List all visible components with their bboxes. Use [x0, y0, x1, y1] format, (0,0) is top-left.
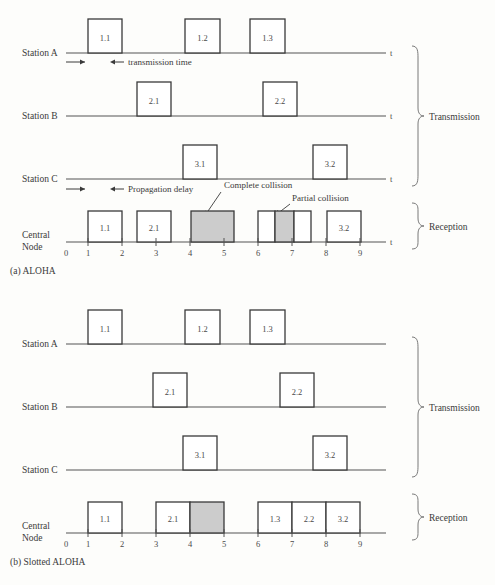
axis-label-t: t: [390, 48, 393, 58]
axis-label-t: t: [390, 174, 393, 184]
packet-box: [258, 211, 275, 242]
tick-label: 1: [86, 539, 90, 549]
annotation-label: Propagation delay: [128, 184, 194, 194]
row-station-a: Station A 1.1 1.2 1.3: [22, 310, 386, 349]
row-label-station-c: Station C: [22, 465, 58, 475]
packet-box: [294, 211, 311, 242]
aloha-timing-figure: Station A t 1.1 1.2 1.3 transmission tim…: [0, 0, 495, 585]
tick-label: 6: [256, 539, 260, 549]
packet-label: 3.2: [339, 223, 350, 233]
annotation-transmission-time: transmission time: [66, 57, 192, 67]
panel-slotted-aloha: Station A 1.1 1.2 1.3 Station B 2.1 2.2 …: [10, 310, 480, 568]
brace-label-transmission: Transmission: [429, 403, 480, 413]
row-label-station-a: Station A: [22, 339, 58, 349]
packet-label: 2.1: [149, 223, 160, 233]
row-central-node: Central Node t 1.1 2.1 3.2: [22, 211, 393, 258]
tick-label: 4: [188, 248, 193, 258]
row-station-a: Station A t 1.1 1.2 1.3: [22, 19, 393, 58]
panel-aloha: Station A t 1.1 1.2 1.3 transmission tim…: [10, 19, 480, 277]
row-label-central-line1: Central: [22, 521, 50, 531]
packet-label: 1.3: [262, 33, 273, 43]
packet-label: 3.2: [338, 514, 349, 524]
packet-label: 3.2: [325, 450, 336, 460]
row-label-station-b: Station B: [22, 402, 58, 412]
collision-box-complete: [190, 502, 224, 533]
row-station-b: Station B t 2.1 2.2: [22, 82, 393, 121]
tick-label: 4: [188, 539, 193, 549]
tick-label: 3: [154, 539, 158, 549]
row-central-node: Central Node 1.1 2.1 1.3 2.2 3.2: [22, 502, 386, 549]
row-label-station-c: Station C: [22, 174, 58, 184]
packet-label: 3.1: [195, 450, 206, 460]
row-label-central-line2: Node: [22, 533, 43, 543]
tick-label: 1: [86, 248, 90, 258]
tick-label: 8: [324, 248, 328, 258]
packet-label: 2.2: [275, 96, 286, 106]
collision-box-complete: [191, 211, 234, 242]
packet-label: 2.2: [304, 514, 315, 524]
brace-label-reception: Reception: [429, 513, 468, 523]
axis-tick-labels: 0 1 2 3 4 5 6 7 8 9: [64, 539, 362, 549]
panel-caption-b: (b) Slotted ALOHA: [10, 557, 86, 568]
tick-label: 0: [64, 539, 68, 549]
axis-label-t: t: [390, 237, 393, 247]
annotation-label: transmission time: [128, 57, 192, 67]
brace-transmission-b: Transmission: [412, 337, 480, 477]
packet-label: 1.1: [100, 514, 111, 524]
packet-label: 3.1: [195, 159, 206, 169]
tick-label: 9: [358, 539, 362, 549]
tick-label: 0: [64, 248, 68, 258]
row-station-c: Station C 3.1 3.2: [22, 436, 386, 475]
tick-label: 3: [154, 248, 158, 258]
packet-label: 3.2: [325, 159, 336, 169]
row-label-central-line1: Central: [22, 230, 50, 240]
packet-label: 2.1: [168, 514, 179, 524]
brace-reception-b: Reception: [412, 494, 468, 540]
packet-label: 1.2: [197, 324, 208, 334]
tick-label: 8: [324, 539, 328, 549]
packet-label: 2.1: [165, 387, 176, 397]
brace-reception-a: Reception: [412, 203, 468, 249]
row-station-c: Station C t 3.1 3.2: [22, 145, 393, 184]
packet-label: 1.1: [100, 33, 111, 43]
row-station-b: Station B 2.1 2.2: [22, 373, 386, 412]
annotation-label: Partial collision: [292, 193, 349, 203]
tick-label: 6: [256, 248, 260, 258]
axis-tick-labels: 0 1 2 3 4 5 6 7 8 9: [64, 248, 362, 258]
packet-label: 1.1: [100, 223, 111, 233]
tick-label: 7: [290, 248, 294, 258]
row-label-station-a: Station A: [22, 48, 58, 58]
tick-label: 5: [222, 539, 226, 549]
packet-label: 2.2: [292, 387, 303, 397]
tick-label: 5: [222, 248, 226, 258]
tick-label: 2: [120, 248, 124, 258]
tick-label: 2: [120, 539, 124, 549]
packet-label: 1.2: [197, 33, 208, 43]
tick-label: 7: [290, 539, 294, 549]
axis-label-t: t: [390, 111, 393, 121]
collision-box-partial: [275, 211, 294, 242]
brace-label-reception: Reception: [429, 222, 468, 232]
packet-label: 1.3: [270, 514, 281, 524]
packet-label: 1.1: [100, 324, 111, 334]
brace-transmission-a: Transmission: [412, 46, 480, 186]
annotation-propagation-delay: Propagation delay: [66, 184, 194, 194]
panel-caption-a: (a) ALOHA: [10, 266, 56, 277]
packet-label: 1.3: [262, 324, 273, 334]
row-label-central-line2: Node: [22, 242, 43, 252]
brace-label-transmission: Transmission: [429, 112, 480, 122]
tick-label: 9: [358, 248, 362, 258]
annotation-label: Complete collision: [224, 180, 293, 190]
row-label-station-b: Station B: [22, 111, 58, 121]
packet-label: 2.1: [149, 96, 160, 106]
